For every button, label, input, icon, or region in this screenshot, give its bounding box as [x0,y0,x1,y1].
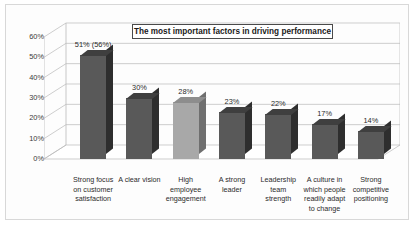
bar-column [358,131,384,159]
y-axis-tick-label: 40% [12,74,44,82]
bar-column [219,112,245,159]
y-axis-tick-label: 60% [12,33,44,41]
bar-front-face [265,114,291,159]
category-label-line: competitive [342,185,400,195]
y-axis-tick-label: 20% [12,114,44,122]
category-label-line: to change [296,204,354,214]
bar-column [126,98,152,159]
bar-data-label: 51% (56%) [58,40,128,49]
bar-data-label: 28% [151,87,221,96]
bar-front-face [80,55,106,159]
category-label-line: on customer [64,185,122,195]
bar-front-face [219,112,245,159]
y-axis-tick-label: 30% [12,94,44,102]
bar-column [265,114,291,159]
bar-front-face [173,102,199,159]
bar-column [173,102,199,159]
chart-title: The most important factors in driving pe… [134,27,331,36]
bars-layer: 51% (56%)30%28%23%22%17%14% [44,21,400,169]
bar-column [312,124,338,159]
category-label-line: engagement [157,194,215,204]
plot-area: 51% (56%)30%28%23%22%17%14% [44,21,400,169]
bar-column [80,55,106,159]
bar-data-label: 14% [336,116,406,125]
category-label-line: satisfaction [64,194,122,204]
y-axis-tick-label: 0% [12,155,44,163]
category-label-line: positioning [342,194,400,204]
y-axis: 60%50%40%30%20%10%0% [12,21,44,169]
bar-front-face [358,131,384,159]
chart-frame: 60%50%40%30%20%10%0% 51% (56%)30%28%23%2… [5,4,409,220]
category-axis-labels: Strong focuson customersatisfactionA cle… [36,175,408,221]
y-axis-tick-label: 10% [12,135,44,143]
y-axis-tick-label: 50% [12,53,44,61]
category-label: Strongcompetitivepositioning [342,175,400,204]
chart-title-box: The most important factors in driving pe… [132,24,333,39]
bar-front-face [312,124,338,159]
bar-side-face [106,45,113,154]
category-label-line: Strong [342,175,400,185]
bar-data-label: 22% [243,99,313,108]
bar-front-face [126,98,152,159]
